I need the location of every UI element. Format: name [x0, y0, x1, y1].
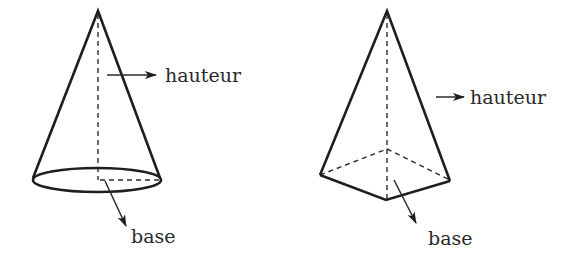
cone-slant-sides [33, 11, 160, 178]
pyramid-base-arrow-icon [394, 180, 416, 223]
pyramid-figure: hauteur base [320, 11, 547, 249]
pyramid-height-label: hauteur [470, 86, 547, 108]
pyramid-base-front-edges [320, 175, 450, 200]
cone-height-label: hauteur [165, 64, 242, 86]
cone-base-ellipse [33, 168, 161, 192]
pyramid-base-label: base [428, 227, 473, 249]
cone-base-arrow-icon [105, 181, 126, 226]
cone-figure: hauteur base [33, 11, 242, 247]
cone-base-label: base [131, 225, 176, 247]
pyramid-lateral-edges [320, 11, 450, 181]
diagram-canvas: hauteur base hauteur base [0, 0, 579, 265]
